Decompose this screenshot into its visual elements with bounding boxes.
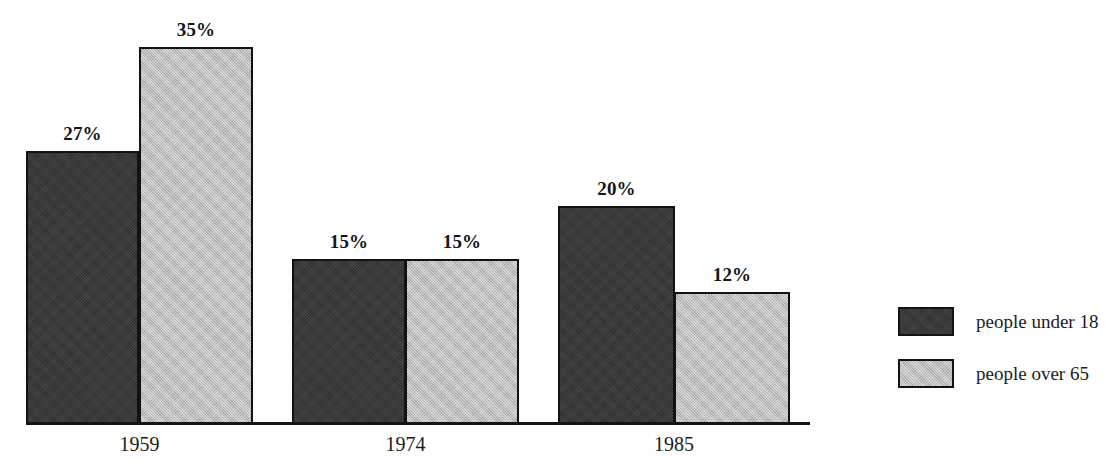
x-axis-tick-label-1974: 1974 [292, 434, 519, 454]
legend-item-label: people under 18 [976, 312, 1098, 331]
x-axis-tick-label-1985: 1985 [558, 434, 790, 454]
bar-1985-people-under-18[interactable] [558, 206, 675, 425]
bar-1959-people-over-65[interactable] [139, 47, 253, 425]
value-label-1974-people-under-18: 15% [292, 232, 406, 251]
chart-legend: people under 18 people over 65 [898, 306, 1113, 398]
value-label-1985-people-over-65: 12% [674, 265, 790, 284]
value-label-1974-people-over-65: 15% [405, 232, 519, 251]
bar-1974-people-under-18[interactable] [292, 259, 406, 425]
value-label-1959-people-over-65: 35% [139, 20, 253, 39]
legend-item-people-under-18[interactable]: people under 18 [898, 306, 1098, 336]
value-label-1985-people-under-18: 20% [558, 179, 675, 198]
legend-item-label: people over 65 [976, 364, 1089, 383]
bar-chart-figure: 27% 35% 15% 15% 20% 12% 1959 1974 1985 p… [0, 0, 1116, 475]
legend-item-people-over-65[interactable]: people over 65 [898, 358, 1089, 388]
dark-swatch-icon [898, 307, 954, 336]
bar-1985-people-over-65[interactable] [674, 292, 790, 425]
light-swatch-icon [898, 359, 954, 388]
x-axis-tick-label-1959: 1959 [26, 434, 253, 454]
plot-area: 27% 35% 15% 15% 20% 12% 1959 1974 1985 [0, 0, 850, 475]
x-axis-baseline [26, 422, 810, 425]
bar-1974-people-over-65[interactable] [405, 259, 519, 425]
bar-1959-people-under-18[interactable] [26, 151, 139, 425]
value-label-1959-people-under-18: 27% [26, 124, 139, 143]
